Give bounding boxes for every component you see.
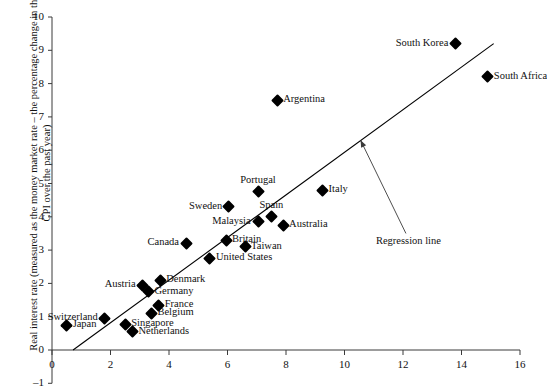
x-tick-label: 6 [218, 358, 238, 370]
x-tick-label: 10 [335, 358, 355, 370]
data-point-label: France [165, 298, 194, 309]
data-point-label: South Korea [396, 37, 449, 48]
y-tick-label: 10 [26, 10, 44, 22]
y-tick-label: 0 [26, 343, 44, 355]
x-tick-label: 4 [159, 358, 179, 370]
data-point-label: Malaysia [212, 215, 251, 226]
x-tick-label: 16 [510, 358, 530, 370]
data-point-label: Austria [105, 278, 136, 289]
data-point-label: Australia [289, 218, 328, 229]
y-tick-label: 5 [26, 177, 44, 189]
x-tick-label: 0 [42, 358, 62, 370]
data-point-label: Canada [148, 236, 180, 247]
x-tick-label: 12 [393, 358, 413, 370]
y-tick-label: 9 [26, 43, 44, 55]
data-point-label: Netherlands [138, 325, 189, 336]
y-tick-label: –1 [26, 376, 44, 388]
x-tick-label: 8 [276, 358, 296, 370]
regression-line-annotation: Regression line [376, 235, 441, 246]
data-point-label: Switzerland [48, 311, 98, 322]
y-tick-label: 1 [26, 310, 44, 322]
y-tick-label: 7 [26, 110, 44, 122]
data-point-label: Spain [259, 199, 283, 210]
x-tick-label: 14 [452, 358, 472, 370]
data-point-label: Denmark [166, 273, 205, 284]
y-tick-label: 6 [26, 143, 44, 155]
x-tick-label: 2 [101, 358, 121, 370]
data-point-label: Taiwan [251, 240, 282, 251]
y-tick-label: 3 [26, 243, 44, 255]
data-point-label: Sweden [189, 200, 222, 211]
data-point-label: Italy [329, 183, 348, 194]
data-point-label: United States [216, 251, 272, 262]
y-tick-label: 8 [26, 77, 44, 89]
data-point-label: Portugal [240, 174, 276, 185]
data-point-label: Argentina [283, 93, 325, 104]
data-point-label: South Africa [494, 70, 547, 81]
y-tick-label: 4 [26, 210, 44, 222]
y-tick-label: 2 [26, 276, 44, 288]
